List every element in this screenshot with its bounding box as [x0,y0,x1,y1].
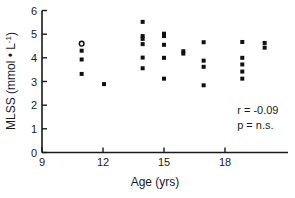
data-point [141,20,145,24]
data-point-open [79,41,84,46]
data-point [202,65,206,69]
data-point [80,57,84,61]
x-tick-label: 9 [39,156,45,168]
y-tick-label: 1 [31,123,37,135]
y-axis-title-tail: ) [4,32,18,36]
data-point [141,56,145,60]
stats-annotation: r = -0.09 p = n.s. [237,104,278,131]
data-point [240,56,244,60]
data-point [141,42,145,46]
x-tick-label: 15 [158,156,170,168]
x-tick-label: 12 [97,156,109,168]
data-point [263,46,267,50]
data-point [202,83,206,87]
data-point [202,59,206,63]
data-point [162,34,166,38]
y-tick-label: 5 [31,28,37,40]
data-point [141,37,145,41]
scatter-plot-figure: 0 1 2 3 4 5 6 9 12 15 18 Age (yrs) MLSS [0,0,295,198]
data-point [263,41,267,45]
data-point [80,49,84,53]
data-point [80,72,84,76]
data-point-group [79,20,266,87]
x-tick-labels: 9 12 15 18 [39,156,231,168]
y-axis-title-main: MLSS (mmol • L [4,43,18,130]
data-point [202,40,206,44]
significance-annotation: p = n.s. [237,119,273,131]
data-point [240,70,244,74]
y-tick-label: 3 [31,76,37,88]
y-tick-labels: 0 1 2 3 4 5 6 [31,5,37,159]
y-axis-title: MLSS (mmol • L-1) [4,32,18,130]
y-tick-label: 4 [31,52,37,64]
data-point [102,82,106,86]
data-point [240,40,244,44]
plot-canvas: 0 1 2 3 4 5 6 9 12 15 18 Age (yrs) MLSS [0,0,295,198]
y-tick-label: 0 [31,147,37,159]
data-point [240,62,244,66]
x-tick-label: 18 [219,156,231,168]
data-point [240,77,244,81]
data-point [181,52,185,56]
y-tick-label: 2 [31,99,37,111]
data-point [162,43,166,47]
y-tick-label: 6 [31,5,37,17]
data-point [141,66,145,70]
data-point [162,56,166,60]
data-point [162,77,166,81]
svg-text:MLSS (mmol • L-1): MLSS (mmol • L-1) [4,32,18,130]
correlation-annotation: r = -0.09 [237,104,278,116]
x-axis-title: Age (yrs) [131,175,180,189]
